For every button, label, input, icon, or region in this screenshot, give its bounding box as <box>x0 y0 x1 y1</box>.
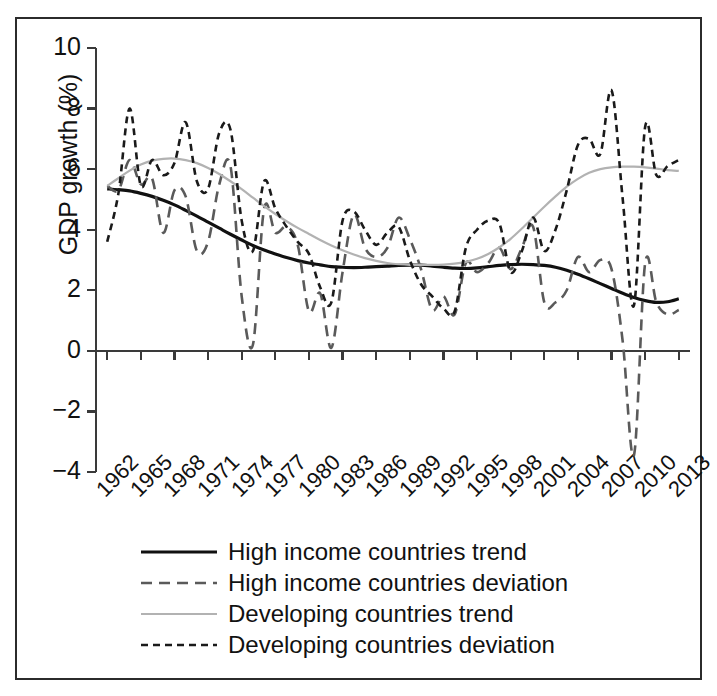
series-line-0 <box>107 189 679 303</box>
legend-line-swatch <box>140 607 218 621</box>
legend-line-swatch <box>140 638 218 652</box>
figure: GDP growth (%) 1086420−2−4 1962196519681… <box>0 0 717 696</box>
legend-line-swatch <box>140 576 218 590</box>
series-line-1 <box>107 159 679 456</box>
legend-item[interactable]: High income countries trend <box>140 536 600 567</box>
chart-legend: High income countries trendHigh income c… <box>140 536 600 660</box>
legend-item[interactable]: Developing countries trend <box>140 598 600 629</box>
legend-line-swatch <box>140 545 218 559</box>
series-lines <box>107 90 679 457</box>
series-line-2 <box>107 158 679 264</box>
legend-label: Developing countries deviation <box>228 633 555 657</box>
legend-label: High income countries deviation <box>228 571 568 595</box>
legend-item[interactable]: High income countries deviation <box>140 567 600 598</box>
legend-label: Developing countries trend <box>228 602 514 626</box>
legend-label: High income countries trend <box>228 540 527 564</box>
legend-item[interactable]: Developing countries deviation <box>140 629 600 660</box>
